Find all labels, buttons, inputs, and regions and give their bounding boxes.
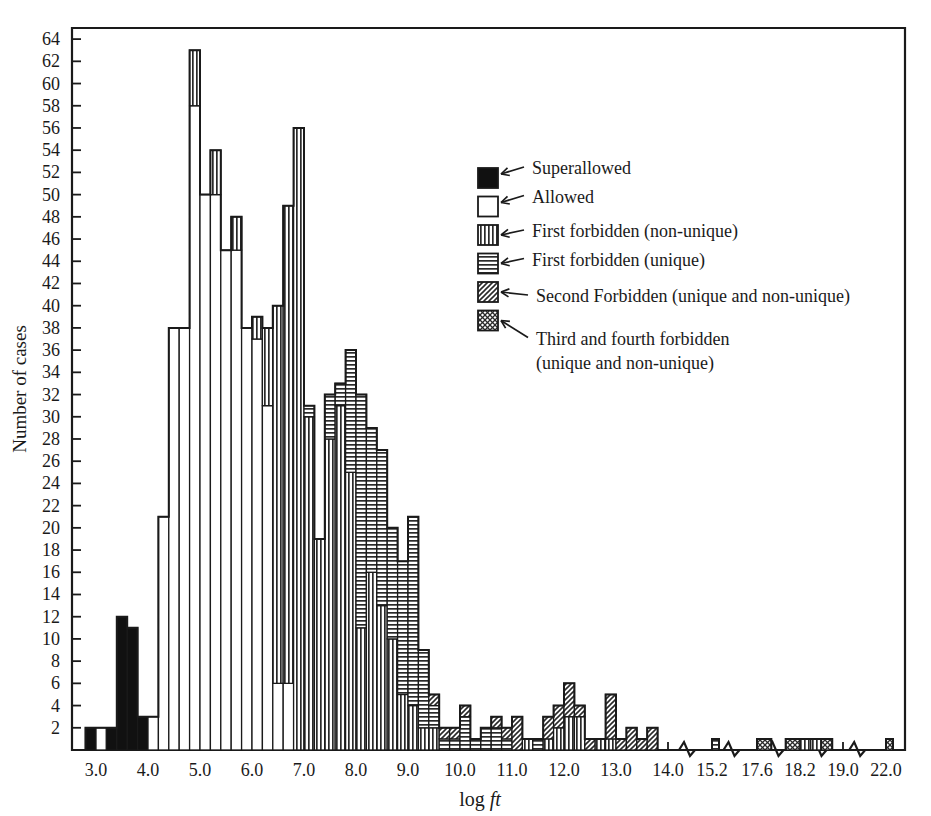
histogram-bar-segment [366, 572, 376, 750]
x-tick-label: 3.0 [85, 760, 108, 780]
histogram-bar-segment [585, 739, 595, 750]
y-tick-label: 4 [51, 696, 60, 716]
y-tick-label: 62 [42, 51, 60, 71]
histogram-bar-segment [86, 728, 97, 750]
histogram-bar-segment [606, 694, 616, 738]
histogram-bar-segment [554, 706, 564, 728]
histogram-bar-segment [429, 706, 439, 728]
histogram-bar-segment [522, 739, 532, 750]
histogram-bar-segment [96, 728, 106, 750]
histogram-bar-segment [757, 739, 771, 750]
histogram-bar-segment [262, 328, 272, 406]
y-tick-label: 32 [42, 385, 60, 405]
histogram-bar-segment [356, 395, 366, 628]
histogram-bar-segment [138, 717, 148, 750]
histogram-bar-segment [346, 472, 356, 750]
histogram-bar-segment [252, 317, 262, 339]
histogram-bar-segment [127, 628, 137, 750]
histogram-bar-segment [200, 195, 210, 750]
y-tick-label: 24 [42, 473, 60, 493]
histogram-bar-segment [387, 639, 397, 750]
y-tick-label: 20 [42, 518, 60, 538]
histogram-bar-segment [502, 728, 512, 739]
x-tick-label: 13.0 [600, 760, 632, 780]
histogram-bar-segment [533, 739, 543, 750]
histogram-bar-segment [491, 728, 501, 750]
legend-label: Superallowed [532, 158, 631, 178]
legend-swatch-solid-black [478, 168, 498, 188]
y-tick-label: 58 [42, 96, 60, 116]
x-tick-label: 6.0 [241, 760, 264, 780]
histogram-bar-segment [543, 739, 553, 750]
histogram-bar-segment [231, 217, 241, 250]
histogram-bar-segment [502, 739, 512, 750]
histogram-bar-segment [439, 728, 449, 739]
histogram-bar-segment [637, 739, 647, 750]
legend-swatch-diagonal-hatch [478, 282, 498, 302]
y-axis-ticks: 2468101214161820222426283032343638404244… [42, 29, 81, 738]
histogram-chart: 2468101214161820222426283032343638404244… [0, 0, 931, 816]
y-tick-label: 46 [42, 229, 60, 249]
x-tick-label: 8.0 [345, 760, 368, 780]
legend-label: First forbidden (unique) [532, 250, 705, 271]
histogram-bar-segment [616, 739, 626, 750]
y-tick-label: 50 [42, 185, 60, 205]
histogram-bar-segment [595, 739, 605, 750]
x-tick-label: 5.0 [189, 760, 212, 780]
y-tick-label: 42 [42, 273, 60, 293]
histogram-bar-segment [387, 528, 397, 639]
histogram-bar-segment [512, 717, 522, 750]
histogram-bar-segment [148, 717, 158, 750]
histogram-bar-segment [450, 728, 460, 739]
y-tick-label: 34 [42, 362, 60, 382]
histogram-bar-segment [398, 561, 408, 694]
histogram-bar-segment [190, 50, 200, 106]
histogram-bar-segment [712, 739, 719, 750]
histogram-bar-segment [811, 739, 822, 750]
histogram-bar-segment [273, 306, 283, 684]
histogram-bar-segment [564, 717, 574, 750]
histogram-bar-segment [335, 383, 345, 405]
histogram-bar-segment [210, 150, 220, 194]
y-tick-label: 8 [51, 651, 60, 671]
legend-swatch-empty-white [478, 197, 498, 217]
histogram-bar-segment [439, 739, 449, 750]
y-tick-label: 10 [42, 629, 60, 649]
y-tick-label: 38 [42, 318, 60, 338]
histogram-bar-segment [242, 328, 252, 750]
histogram-bar-segment [304, 406, 314, 417]
histogram-bar-segment [346, 350, 356, 472]
histogram-bar-segment [294, 128, 304, 750]
histogram-bar-segment [325, 439, 335, 750]
x-tick-label: 22.0 [870, 760, 902, 780]
y-tick-label: 60 [42, 74, 60, 94]
histogram-bar-segment [356, 628, 366, 750]
histogram-bar-segment [231, 250, 241, 750]
histogram-bar-segment [106, 728, 116, 750]
legend-swatch-cross-hatch [478, 311, 498, 331]
histogram-bar-segment [335, 406, 345, 750]
y-tick-label: 26 [42, 451, 60, 471]
histogram-bar-segment [647, 728, 657, 750]
histogram-bar-segment [822, 739, 833, 750]
x-tick-label: 14.0 [652, 760, 684, 780]
x-tick-label: 15.2 [696, 760, 728, 780]
y-tick-label: 16 [42, 562, 60, 582]
legend-label: First forbidden (non-unique) [532, 221, 738, 242]
x-tick-label: 11.0 [497, 760, 528, 780]
histogram-bar-segment [408, 517, 418, 706]
histogram-bars [86, 50, 894, 750]
histogram-bar-segment [377, 606, 387, 750]
legend-label: Third and fourth forbidden [536, 329, 729, 349]
legend-label: Allowed [532, 187, 594, 207]
histogram-bar-segment [179, 328, 189, 750]
y-tick-label: 48 [42, 207, 60, 227]
histogram-bar-segment [574, 717, 584, 750]
x-tick-label: 9.0 [397, 760, 420, 780]
y-tick-label: 22 [42, 496, 60, 516]
histogram-bar-segment [460, 706, 470, 717]
legend-label: Second Forbidden (unique and non-unique) [536, 286, 850, 307]
chart-root: 2468101214161820222426283032343638404244… [0, 0, 931, 816]
histogram-bar-segment [398, 694, 408, 750]
y-tick-label: 54 [42, 140, 60, 160]
